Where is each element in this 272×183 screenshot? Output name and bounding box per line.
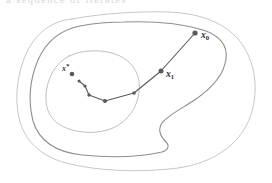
iterate-dot-group [70, 30, 198, 103]
iterate-point-x4 [87, 93, 90, 96]
iterate-point-x1 [159, 69, 164, 74]
contour-middle-level-set [30, 22, 226, 157]
iterate-point-x2 [132, 91, 136, 95]
figure-root: a sequence of iterates x0x1x* [0, 0, 272, 183]
label-xstar-superscript: * [66, 62, 70, 70]
iterate-path-group: x0x1x* [61, 30, 210, 103]
iterate-point-x0 [192, 30, 197, 35]
label-x1-subscript: 1 [171, 73, 174, 80]
iterate-point-xstar [70, 72, 75, 77]
label-x0-subscript: 0 [206, 34, 210, 41]
contour-inner-level-set [46, 51, 139, 133]
iterate-polyline [79, 33, 195, 101]
contour-diagram-canvas: x0x1x* [0, 0, 272, 183]
iterate-label-group: x0x1x* [61, 30, 210, 80]
iterate-point-x3 [103, 99, 107, 103]
label-x1: x1 [165, 69, 174, 80]
iterate-point-x5 [83, 84, 86, 87]
iterate-point-x6 [78, 80, 81, 83]
label-xstar: x* [61, 62, 70, 73]
